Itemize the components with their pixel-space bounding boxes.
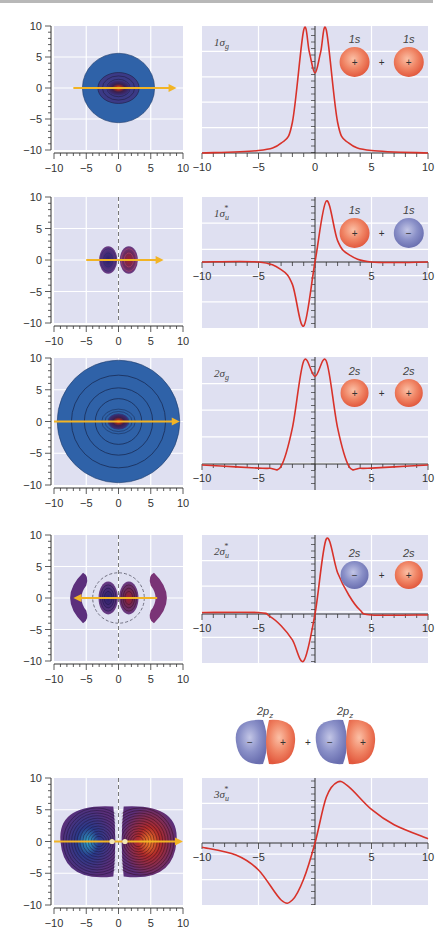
top-rule bbox=[0, 0, 433, 3]
line-plot-1: −10−505101σg+1s+1s+ bbox=[196, 22, 436, 177]
y-tick-label: 0 bbox=[36, 82, 42, 94]
x-tick-label: −10 bbox=[45, 335, 64, 347]
x-tick-label: 5 bbox=[148, 917, 154, 929]
combine-plus: + bbox=[305, 737, 311, 748]
x-tick-label: −10 bbox=[193, 851, 212, 863]
ao-label: 2s bbox=[348, 547, 361, 559]
x-tick-label: 0 bbox=[115, 673, 121, 685]
combine-plus: + bbox=[379, 570, 385, 581]
x-tick-label: 5 bbox=[368, 851, 374, 863]
contour-plot-1: −10−10−5−500551010 bbox=[20, 18, 191, 180]
y-tick-label: −5 bbox=[29, 447, 42, 459]
x-tick-label: 5 bbox=[148, 497, 154, 509]
x-tick-label: 5 bbox=[368, 270, 374, 282]
phase-sign: + bbox=[406, 570, 412, 581]
combine-plus: + bbox=[379, 57, 385, 68]
svg-text:+: + bbox=[360, 737, 366, 748]
x-tick-label: −5 bbox=[80, 497, 93, 509]
phase-sign: + bbox=[406, 388, 412, 399]
y-tick-label: 10 bbox=[30, 352, 42, 364]
x-tick-label: 10 bbox=[422, 472, 434, 484]
contour-plot-3: −10−10−5−500551010 bbox=[20, 350, 191, 515]
x-tick-label: 10 bbox=[422, 161, 434, 173]
x-tick-label: −5 bbox=[80, 335, 93, 347]
defs bbox=[0, 0, 1, 1]
x-tick-label: −10 bbox=[45, 673, 64, 685]
x-tick-label: 5 bbox=[148, 673, 154, 685]
ao-label: 2s bbox=[402, 365, 415, 377]
x-tick-label: −5 bbox=[252, 270, 265, 282]
contour-plot-2: −10−10−5−500551010 bbox=[20, 189, 191, 353]
y-tick-label: 5 bbox=[36, 561, 42, 573]
y-tick-label: 5 bbox=[36, 384, 42, 396]
y-tick-label: 0 bbox=[36, 836, 42, 848]
x-tick-label: −10 bbox=[45, 917, 64, 929]
x-tick-label: 10 bbox=[422, 622, 434, 634]
x-tick-label: 10 bbox=[177, 162, 189, 174]
y-tick-label: −10 bbox=[23, 655, 42, 667]
x-tick-label: −5 bbox=[80, 673, 93, 685]
phase-sign: − bbox=[406, 228, 412, 239]
phase-sign: + bbox=[352, 228, 358, 239]
y-tick-label: 0 bbox=[36, 416, 42, 428]
ao-label: 1s bbox=[403, 33, 415, 45]
svg-text:−: − bbox=[327, 737, 333, 748]
y-tick-label: 0 bbox=[36, 254, 42, 266]
y-tick-label: −5 bbox=[29, 867, 42, 879]
y-tick-label: 5 bbox=[36, 223, 42, 235]
x-tick-label: 10 bbox=[422, 270, 434, 282]
y-tick-label: 0 bbox=[36, 592, 42, 604]
ao-label: 2s bbox=[402, 547, 415, 559]
y-tick-label: −10 bbox=[23, 144, 42, 156]
y-tick-label: −5 bbox=[29, 624, 42, 636]
x-tick-label: −10 bbox=[45, 162, 64, 174]
line-plot-2: −10−55101σu*+1s−1s+ bbox=[196, 193, 436, 352]
combine-plus: + bbox=[379, 228, 385, 239]
x-tick-label: 0 bbox=[115, 162, 121, 174]
y-tick-label: −10 bbox=[23, 899, 42, 911]
x-tick-label: 5 bbox=[148, 162, 154, 174]
ao-label: 1s bbox=[349, 204, 361, 216]
y-tick-label: 5 bbox=[36, 804, 42, 816]
x-tick-label: −10 bbox=[193, 270, 212, 282]
x-tick-label: 10 bbox=[177, 497, 189, 509]
y-tick-label: 5 bbox=[36, 51, 42, 63]
y-tick-label: −10 bbox=[23, 317, 42, 329]
x-tick-label: 10 bbox=[177, 673, 189, 685]
y-tick-label: 10 bbox=[30, 20, 42, 32]
x-tick-label: 0 bbox=[115, 335, 121, 347]
x-tick-label: −10 bbox=[193, 161, 212, 173]
y-tick-label: −10 bbox=[23, 479, 42, 491]
x-tick-label: 5 bbox=[368, 161, 374, 173]
line-plot-3: −10−55102σg+2s+2s+ bbox=[196, 353, 436, 514]
x-tick-label: −5 bbox=[80, 162, 93, 174]
x-tick-label: 5 bbox=[368, 472, 374, 484]
nucleus-marker bbox=[109, 839, 114, 844]
phase-sign: + bbox=[352, 57, 358, 68]
ao-label: 2pz bbox=[256, 705, 273, 720]
y-tick-label: 10 bbox=[30, 529, 42, 541]
pz-orbital-diagram: −+2pz−+2pz+ bbox=[225, 700, 425, 770]
x-tick-label: 10 bbox=[177, 335, 189, 347]
y-tick-label: 10 bbox=[30, 772, 42, 784]
svg-text:+: + bbox=[280, 737, 286, 748]
y-tick-label: −5 bbox=[29, 113, 42, 125]
x-tick-label: −10 bbox=[193, 622, 212, 634]
contour-plot-5: −10−10−5−500551010 bbox=[20, 770, 191, 935]
line-plot-5: −10−55103σu* bbox=[196, 774, 436, 929]
x-tick-label: −5 bbox=[252, 161, 265, 173]
line-plot-4: −10−55102σu*−2s+2s+ bbox=[196, 531, 436, 687]
ao-label: 1s bbox=[349, 33, 361, 45]
y-tick-label: 10 bbox=[30, 191, 42, 203]
contour-plot-4: −10−10−5−500551010 bbox=[20, 527, 191, 691]
x-tick-label: −5 bbox=[252, 622, 265, 634]
svg-text:−: − bbox=[247, 737, 253, 748]
ao-label: 2pz bbox=[336, 705, 353, 720]
x-tick-label: 0 bbox=[312, 161, 318, 173]
phase-sign: + bbox=[406, 57, 412, 68]
x-tick-label: −5 bbox=[252, 851, 265, 863]
x-tick-label: 5 bbox=[368, 622, 374, 634]
x-tick-label: 5 bbox=[148, 335, 154, 347]
combine-plus: + bbox=[379, 388, 385, 399]
x-tick-label: −5 bbox=[252, 472, 265, 484]
